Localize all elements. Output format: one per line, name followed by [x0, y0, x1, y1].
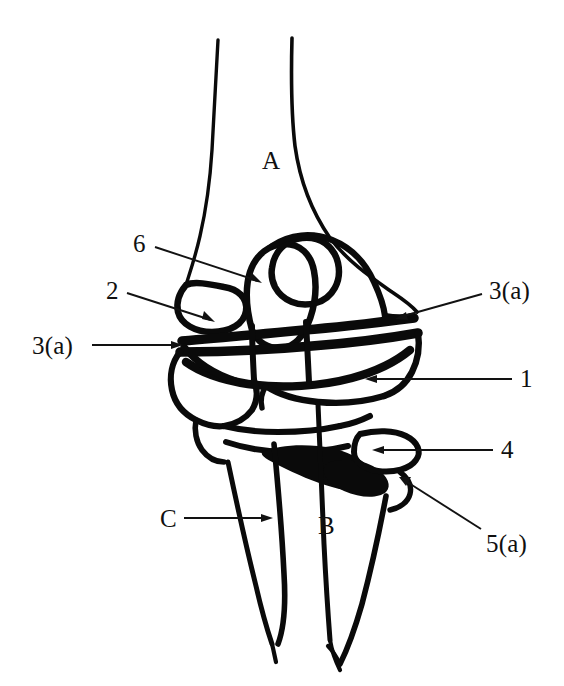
ligament-vertical-strand-b — [306, 322, 309, 382]
coronoid-upper-right — [340, 416, 370, 426]
coronoid-upper-edge — [224, 426, 340, 432]
diagram-canvas — [0, 0, 564, 686]
ligament-bands — [180, 318, 418, 386]
humerus-right-edge — [291, 38, 417, 312]
label-2: 2 — [106, 278, 119, 303]
label-6: 6 — [133, 231, 146, 256]
label-4: 4 — [501, 437, 514, 462]
articular-body-left-edge — [261, 386, 266, 408]
label-3a-left: 3(a) — [32, 333, 73, 358]
radial-head-outline — [354, 431, 419, 471]
label-1: 1 — [520, 366, 533, 391]
ulna-left-edge — [228, 462, 272, 644]
anatomical-figure: A 6 2 3(a) 3(a) 1 4 5(a) C B — [0, 0, 564, 686]
label-c: C — [160, 506, 177, 531]
label-5a: 5(a) — [486, 531, 527, 556]
label-a: A — [262, 148, 280, 173]
ulna-tip — [272, 644, 276, 662]
leader-c — [184, 514, 273, 522]
capitellum-ring — [272, 238, 339, 305]
leader-1 — [365, 375, 512, 383]
leader-2 — [127, 293, 215, 322]
label-3a-right: 3(a) — [489, 278, 530, 303]
leader-5a — [399, 477, 481, 529]
annular-ligament-block-2 — [324, 460, 389, 497]
forearm-shafts — [228, 404, 386, 670]
leader-3a-left — [92, 341, 183, 349]
humerus-shaft — [186, 38, 417, 312]
ulna-right-edge — [274, 444, 285, 644]
leader-4 — [372, 446, 493, 454]
label-b: B — [318, 513, 335, 538]
humerus-left-edge — [186, 40, 218, 285]
leader-6 — [155, 247, 262, 283]
radius-right-edge — [340, 496, 386, 664]
ligament-vertical-strand-a — [252, 326, 254, 380]
lateral-condyle-loop — [177, 283, 246, 332]
